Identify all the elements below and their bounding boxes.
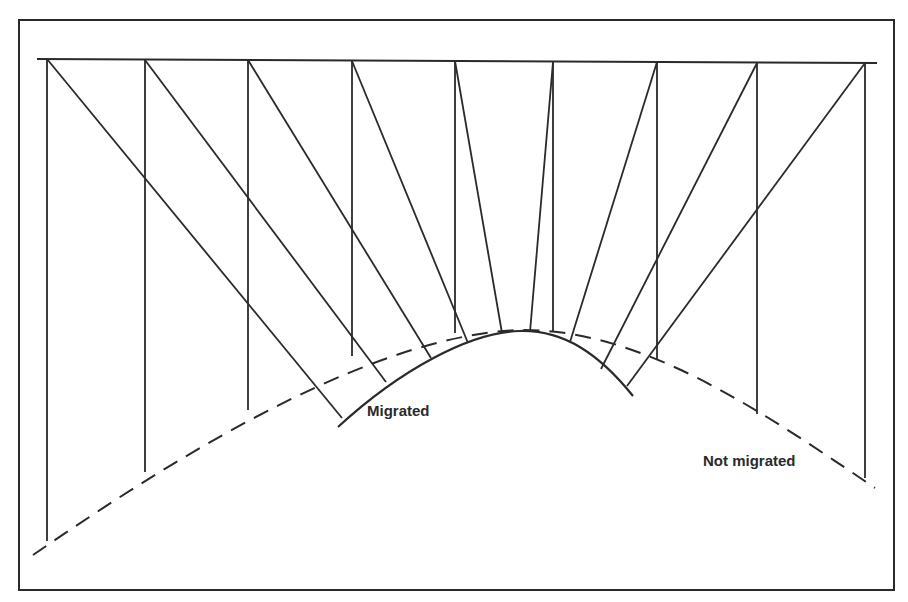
migrated-ray-1 <box>47 59 342 418</box>
migrated-label: Migrated <box>367 402 430 419</box>
migrated-ray-7 <box>570 62 657 342</box>
figure-frame <box>19 20 894 590</box>
migrated-ray-4 <box>352 61 468 343</box>
migrated-ray-8 <box>601 63 757 369</box>
migrated-ray-3 <box>248 60 431 358</box>
not-migrated-reflector-curve <box>33 330 875 555</box>
migrated-ray-6 <box>530 62 553 332</box>
surface-line <box>37 59 877 63</box>
not-migrated-label: Not migrated <box>703 452 796 469</box>
migrated-ray-5 <box>455 61 502 333</box>
migrated-ray-group <box>47 59 865 418</box>
migration-diagram <box>0 0 908 602</box>
migrated-ray-9 <box>627 63 865 386</box>
